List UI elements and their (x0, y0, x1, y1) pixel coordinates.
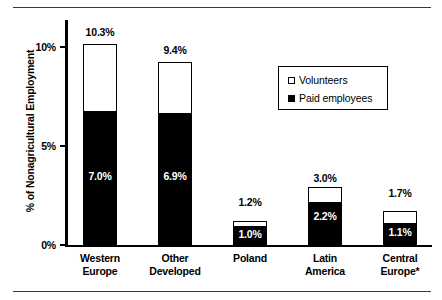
y-tick-label-0: 0% (20, 239, 56, 251)
y-tick-label-10: 10% (20, 41, 56, 53)
y-tick-mark-10 (60, 46, 67, 48)
x-category-label-4-line1: Central (354, 252, 442, 265)
open-square-icon (288, 77, 295, 84)
bar-paid-label-1: 6.9% (158, 170, 192, 182)
chart-legend: Volunteers Paid employees (278, 66, 388, 110)
x-category-label-4-line2: Europe* (354, 265, 442, 278)
y-tick-mark-0 (60, 244, 67, 246)
bar-total-label-1: 9.4% (140, 44, 210, 56)
bar-paid-label-2: 1.0% (233, 228, 267, 240)
bar-total-label-3: 3.0% (290, 172, 360, 184)
bar-paid-label-3: 2.2% (308, 210, 342, 222)
filled-square-icon (288, 95, 295, 102)
legend-item-paid-employees: Paid employees (288, 92, 372, 104)
bar-paid-label-0: 7.0% (83, 170, 117, 182)
legend-label-paid-employees: Paid employees (299, 92, 372, 104)
y-tick-label-5: 5% (20, 140, 56, 152)
y-tick-label-5-wrap: 5% (20, 140, 56, 152)
x-category-label-1-line2: Developed (129, 265, 221, 278)
bar-total-label-4: 1.7% (365, 187, 435, 199)
x-category-label-4: Central Europe* (354, 252, 442, 277)
bar-paid-label-4: 1.1% (383, 226, 417, 238)
y-tick-label-10-wrap: 10% (20, 41, 56, 53)
legend-item-volunteers: Volunteers (288, 74, 348, 86)
bar-total-label-2: 1.2% (215, 196, 285, 208)
y-tick-mark-5 (60, 145, 67, 147)
bar-total-label-0: 10.3% (65, 26, 135, 38)
bar-paid-3 (308, 202, 342, 245)
legend-label-volunteers: Volunteers (299, 74, 348, 86)
chart-figure: % of Nonagricultural Employment 10% 5% 0… (0, 0, 442, 300)
y-axis-line (65, 20, 68, 247)
plot-area: % of Nonagricultural Employment 10% 5% 0… (0, 0, 442, 300)
y-tick-label-0-wrap: 0% (20, 239, 56, 251)
